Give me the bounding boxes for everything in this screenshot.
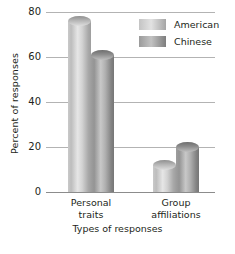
x-axis-title: Types of responses (0, 223, 235, 234)
bar-chinese-personal-traits (91, 50, 114, 192)
legend-item-american: American (139, 17, 219, 32)
bar-body (68, 21, 91, 192)
bar-body (176, 147, 199, 192)
legend-swatch-icon-chinese (139, 36, 166, 47)
gridline (46, 12, 215, 13)
bar-american-personal-traits (68, 16, 91, 192)
legend-item-chinese: Chinese (139, 34, 219, 49)
y-axis-tick-label: 40 (1, 97, 41, 107)
category-label-line: Group (162, 197, 191, 208)
bar-cap-ellipse (153, 160, 176, 170)
x-axis-line (46, 192, 215, 193)
x-axis-category-label: Personaltraits (43, 197, 139, 220)
y-axis-tick-label: 0 (1, 187, 41, 197)
category-label-line: Personal (71, 197, 111, 208)
legend-label-chinese: Chinese (174, 36, 212, 47)
y-axis-tick-label: 60 (1, 52, 41, 62)
bar-chinese-group-affiliations (176, 142, 199, 192)
category-label-line: traits (43, 209, 139, 221)
bar-body (91, 55, 114, 192)
bar-cap-ellipse (68, 16, 91, 26)
y-axis-tick-label: 20 (1, 142, 41, 152)
category-label-line: affiliations (128, 209, 224, 221)
bar-cap-ellipse (91, 50, 114, 60)
x-axis-category-label: Groupaffiliations (128, 197, 224, 220)
legend: American Chinese (139, 17, 219, 51)
bar-chart: Percent of responses 806040200 American … (0, 0, 235, 254)
bar-cap-ellipse (176, 142, 199, 152)
legend-label-american: American (174, 19, 219, 30)
bar-american-group-affiliations (153, 160, 176, 192)
y-axis-tick-label: 80 (1, 7, 41, 17)
legend-swatch-icon-american (139, 19, 166, 30)
